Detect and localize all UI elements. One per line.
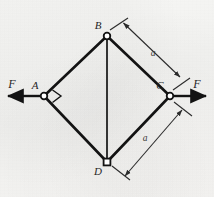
dimension-dc-line: [125, 110, 182, 176]
dimension-dc-extension-end: [174, 102, 192, 116]
node-label-B: B: [95, 19, 102, 31]
force-label-left: F: [7, 77, 16, 91]
node-marker-C: [167, 93, 174, 100]
right-angle-marker-icon: [53, 90, 62, 103]
dimension-bc-label: a: [151, 48, 156, 58]
node-marker-B: [104, 33, 111, 40]
member-DA: [44, 96, 107, 162]
dimension-bc-extension-end: [173, 78, 190, 90]
member-AB: [44, 36, 107, 96]
truss-diagram: A B C D F F a a: [0, 0, 214, 197]
node-label-A: A: [31, 79, 39, 91]
node-marker-D: [104, 159, 111, 166]
member-CD: [107, 96, 170, 162]
figure-canvas: A B C D F F a a: [0, 0, 214, 197]
dimension-dc-label: a: [143, 133, 148, 143]
node-label-C: C: [156, 79, 164, 91]
node-label-D: D: [93, 165, 102, 177]
force-label-right: F: [192, 77, 201, 91]
node-marker-A: [41, 93, 48, 100]
